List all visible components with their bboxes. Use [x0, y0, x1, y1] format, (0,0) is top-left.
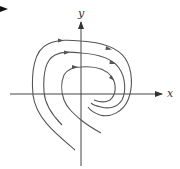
arrow-middle-top-icon: [64, 51, 70, 55]
corner-arrow-icon: [0, 6, 8, 12]
phase-portrait-diagram: [0, 0, 180, 169]
trajectory-outer: [32, 40, 131, 150]
arrow-middle-right-icon: [110, 60, 117, 64]
y-axis-label: y: [78, 8, 84, 19]
x-axis-label: x: [167, 88, 173, 99]
arrow-outer-top-icon: [58, 39, 64, 43]
trajectory-inner: [62, 67, 115, 133]
direction-arrows: [58, 39, 116, 81]
arrow-inner-top-icon: [72, 65, 78, 69]
